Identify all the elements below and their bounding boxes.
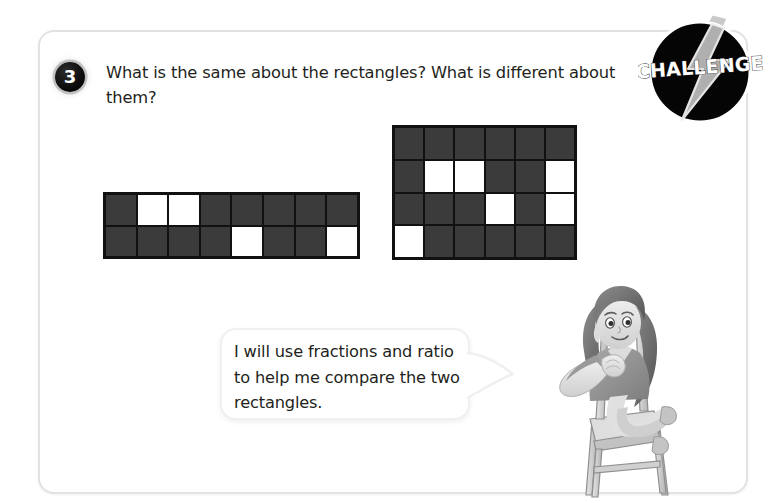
cell-rectangle-a-r2c1 (105, 226, 137, 258)
cell-rectangle-a-r1c6 (263, 194, 295, 226)
speech-bubble-tail (461, 348, 515, 404)
cell-rectangle-b-r3c6 (545, 193, 575, 226)
cell-rectangle-b-r1c2 (424, 127, 454, 160)
cell-rectangle-b-r2c4 (485, 160, 515, 193)
girl-on-chair-illustration (536, 281, 688, 503)
challenge-badge: CHALLENGE (638, 12, 763, 130)
cell-rectangle-b-r2c1 (394, 160, 424, 193)
cell-rectangle-a-r2c7 (295, 226, 327, 258)
cell-rectangle-a-r1c2 (137, 194, 169, 226)
cell-rectangle-a-r2c4 (200, 226, 232, 258)
cell-rectangle-b-r1c6 (545, 127, 575, 160)
cell-rectangle-b-r3c2 (424, 193, 454, 226)
cell-rectangle-b-r4c1 (394, 225, 424, 258)
cell-rectangle-b-r1c3 (454, 127, 484, 160)
cell-rectangle-a-r1c5 (231, 194, 263, 226)
shoe (660, 407, 676, 425)
cell-rectangle-a-r1c7 (295, 194, 327, 226)
cell-rectangle-b-r2c6 (545, 160, 575, 193)
speech-bubble: I will use fractions and ratio to help m… (220, 328, 470, 420)
rectangle-a-grid (103, 192, 360, 259)
cell-rectangle-a-r1c3 (168, 194, 200, 226)
cell-rectangle-b-r4c6 (545, 225, 575, 258)
cell-rectangle-a-r2c3 (168, 226, 200, 258)
cell-rectangle-a-r1c1 (105, 194, 137, 226)
cell-rectangle-b-r4c3 (454, 225, 484, 258)
cell-rectangle-b-r3c5 (515, 193, 545, 226)
question-text: What is the same about the rectangles? W… (106, 60, 616, 110)
question-number-badge: 3 (55, 62, 85, 92)
cell-rectangle-b-r3c4 (485, 193, 515, 226)
cell-rectangle-a-r2c2 (137, 226, 169, 258)
cell-rectangle-b-r1c1 (394, 127, 424, 160)
cell-rectangle-a-r2c8 (326, 226, 358, 258)
rectangle-b-grid (392, 125, 577, 260)
cell-rectangle-b-r2c2 (424, 160, 454, 193)
cell-rectangle-b-r3c3 (454, 193, 484, 226)
cell-rectangle-a-r2c5 (231, 226, 263, 258)
speech-bubble-text: I will use fractions and ratio to help m… (234, 339, 462, 416)
cell-rectangle-b-r1c4 (485, 127, 515, 160)
cell-rectangle-b-r4c4 (485, 225, 515, 258)
cell-rectangle-a-r1c8 (326, 194, 358, 226)
cell-rectangle-a-r2c6 (263, 226, 295, 258)
cell-rectangle-b-r2c3 (454, 160, 484, 193)
cell-rectangle-b-r4c5 (515, 225, 545, 258)
cell-rectangle-b-r3c1 (394, 193, 424, 226)
cell-rectangle-b-r2c5 (515, 160, 545, 193)
cell-rectangle-a-r1c4 (200, 194, 232, 226)
question-number-label: 3 (64, 68, 77, 86)
cell-rectangle-b-r1c5 (515, 127, 545, 160)
cell-rectangle-b-r4c2 (424, 225, 454, 258)
